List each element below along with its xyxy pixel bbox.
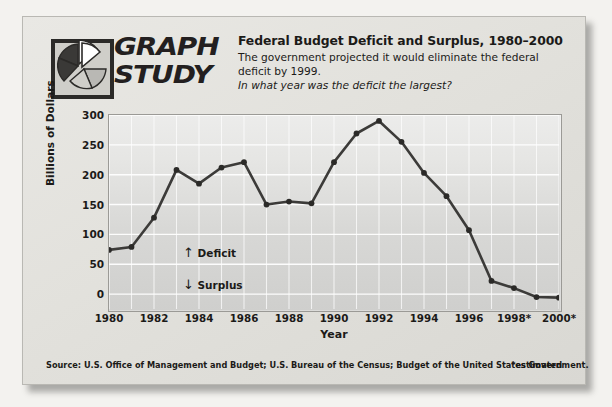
y-axis-ticks: 050100150200250300 — [60, 114, 104, 310]
x-tick-label: 1990 — [320, 312, 349, 324]
y-tick-label: 0 — [97, 288, 104, 300]
x-tick-label: 1982 — [140, 312, 169, 324]
down-arrow-icon: ↓ — [183, 277, 194, 292]
logo-wordmark: GRAPH STUDY — [114, 32, 234, 96]
y-tick-label: 100 — [82, 228, 104, 240]
graph-study-card: GRAPH STUDY Federal Budget Deficit and S… — [22, 16, 586, 385]
pie-chart-icon — [48, 34, 112, 96]
x-axis-ticks: 1980198219841986198819901992199419961998… — [108, 312, 560, 328]
y-tick-label: 200 — [82, 169, 104, 181]
y-tick-label: 150 — [82, 199, 104, 211]
up-arrow-icon: ↑ — [183, 245, 194, 260]
x-tick-label: 1992 — [365, 312, 394, 324]
card-inner: GRAPH STUDY Federal Budget Deficit and S… — [28, 22, 580, 379]
header-question: In what year was the deficit the largest… — [238, 79, 566, 92]
x-tick-label: 1998* — [497, 312, 531, 324]
source-note: Source: U.S. Office of Management and Bu… — [46, 360, 589, 370]
logo-word-study: STUDY — [114, 62, 212, 87]
y-tick-label: 50 — [89, 258, 104, 270]
x-tick-label: 1994 — [410, 312, 439, 324]
header: GRAPH STUDY Federal Budget Deficit and S… — [48, 32, 566, 106]
logo-word-graph: GRAPH — [114, 34, 219, 59]
x-tick-label: 1984 — [185, 312, 214, 324]
deficit-label: Deficit — [198, 247, 236, 259]
chart: Billions of Dollars 050100150200250300 ↑… — [46, 114, 570, 364]
graph-study-logo — [48, 34, 112, 96]
surplus-label: Surplus — [198, 279, 243, 291]
header-subtitle: The government projected it would elimin… — [238, 51, 566, 77]
line-chart-svg — [109, 115, 559, 309]
page-title: Federal Budget Deficit and Surplus, 1980… — [238, 34, 566, 48]
y-tick-label: 250 — [82, 139, 104, 151]
x-tick-label: 2000* — [542, 312, 576, 324]
plot-area: ↑ Deficit ↓ Surplus — [108, 114, 562, 312]
x-tick-label: 1986 — [230, 312, 259, 324]
x-axis-label: Year — [108, 328, 560, 341]
estimated-note: *estimated — [511, 360, 562, 370]
x-tick-label: 1988 — [275, 312, 304, 324]
deficit-annotation: ↑ Deficit — [183, 245, 236, 260]
x-tick-label: 1980 — [95, 312, 124, 324]
header-text: Federal Budget Deficit and Surplus, 1980… — [238, 34, 566, 92]
surplus-annotation: ↓ Surplus — [183, 277, 243, 292]
x-tick-label: 1996 — [455, 312, 484, 324]
screenshot-root: GRAPH STUDY Federal Budget Deficit and S… — [0, 0, 612, 407]
y-axis-label: Billions of Dollars — [44, 80, 56, 186]
y-tick-label: 300 — [82, 109, 104, 121]
